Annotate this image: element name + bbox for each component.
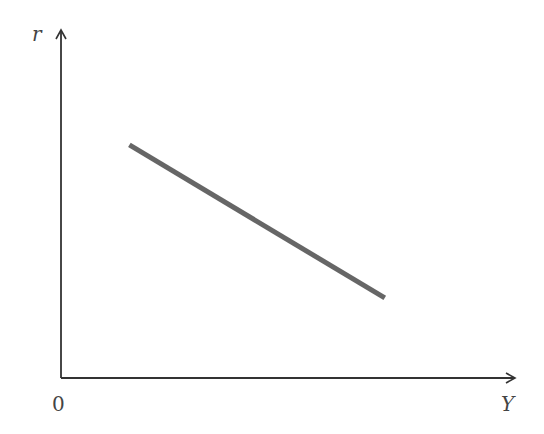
x-axis-label: Y (501, 392, 514, 416)
y-axis-label: r (32, 22, 42, 46)
origin-label: 0 (52, 392, 65, 416)
is-curve-line (129, 145, 384, 298)
chart-canvas (0, 0, 544, 434)
